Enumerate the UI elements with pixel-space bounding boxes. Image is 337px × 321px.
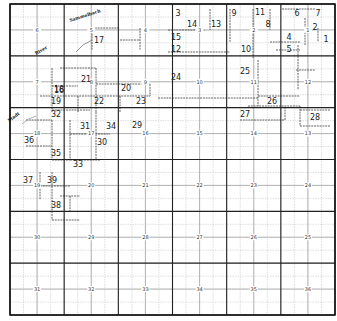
section-number-label: 25 [305,234,311,240]
lot-number-label: 28 [310,113,320,122]
lot-number-label: 33 [73,160,83,169]
lot-number-label: 13 [211,20,221,29]
lot-number-label: 39 [47,176,57,185]
lot-number-label: 12 [171,45,181,54]
section-number-label: 12 [305,79,311,85]
section-number-label: 28 [142,234,148,240]
water-labels: SammelbachRiverStadt [7,8,102,124]
water-feature-label: River [34,45,49,56]
lot-number-label: 6 [294,9,299,18]
section-number-label: 1 [306,27,309,33]
lot-number-label: 22 [94,97,104,106]
lot-number-label: 10 [241,45,251,54]
section-number-label: 31 [34,286,40,292]
section-number-label: 22 [196,182,202,188]
section-number-label: 6 [35,27,38,33]
lot-number-label: 4 [286,33,291,42]
lot-number-label: 5 [286,45,291,54]
lot-number-label: 35 [51,149,61,158]
lot-number-label: 1 [323,35,328,44]
section-number-label: 35 [251,286,257,292]
lot-number-label: 7 [315,9,320,18]
lot-number-label: 27 [240,110,250,119]
lot-number-label: 24 [171,73,181,82]
lot-number-label: 21 [81,75,91,84]
section-number-label: 2 [252,27,255,33]
lot-number-label: 31 [80,122,90,131]
lot-number-label: 26 [267,97,277,106]
lot-number-label: 23 [136,97,146,106]
water-feature-label: Stadt [7,110,22,122]
section-number-label: 29 [88,234,94,240]
lot-number-label: 3 [175,9,180,18]
section-number-label: 21 [142,182,148,188]
section-number-label: 13 [305,130,311,136]
section-number-label: 17 [88,130,94,136]
lot-number-label: 17 [94,36,104,45]
section-number-label: 20 [88,182,94,188]
lot-number-label: 25 [240,67,250,76]
stream-line [76,40,92,52]
section-number-label: 5 [90,27,93,33]
lot-number-label: 38 [51,201,61,210]
lot-number-label: 20 [121,84,131,93]
section-number-label: 7 [35,79,38,85]
section-number-label: 36 [305,286,311,292]
section-number-label: 27 [196,234,202,240]
water-feature-label: Sammelbach [69,8,102,23]
lot-number-label: 14 [187,20,197,29]
lot-number-label: 34 [106,122,116,131]
section-number-label: 18 [34,130,40,136]
section-number-label: 14 [251,130,257,136]
section-number-label: 30 [34,234,40,240]
section-number-label: 32 [88,286,94,292]
section-number-label: 26 [251,234,257,240]
lot-number-label: 36 [24,136,34,145]
section-number-label: 4 [144,27,147,33]
lot-number-label: 18 [54,85,64,94]
section-number-label: 9 [144,79,147,85]
section-number-label: 10 [196,79,202,85]
lot-number-label: 15 [171,33,181,42]
section-number-label: 11 [251,79,257,85]
lot-number-label: 30 [97,138,107,147]
lot-number-label: 2 [312,23,317,32]
section-number-label: 23 [251,182,257,188]
lot-number-label: 37 [23,176,33,185]
lot-number-label: 32 [51,110,61,119]
lot-number-label: 9 [231,9,236,18]
section-number-label: 15 [196,130,202,136]
lot-labels: 1234567891011121314151617181920212223242… [23,8,329,210]
lot-number-label: 29 [132,121,142,130]
section-number-label: 34 [196,286,202,292]
township-map: 6543217891011121817161514131920212223243… [0,0,337,321]
section-number-label: 33 [142,286,148,292]
section-number-label: 16 [142,130,148,136]
section-number-label: 3 [198,27,201,33]
lot-number-label: 11 [255,8,265,17]
lot-number-label: 8 [265,20,270,29]
section-number-label: 24 [305,182,311,188]
lot-number-label: 19 [51,97,61,106]
section-number-label: 19 [34,182,40,188]
